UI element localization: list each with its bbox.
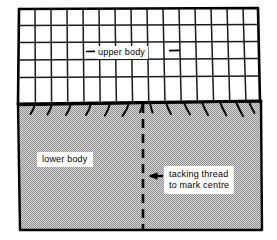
label-upper-body: upper body bbox=[95, 46, 148, 59]
label-tacking-line-1: tacking thread bbox=[169, 169, 229, 180]
figure-artwork bbox=[0, 0, 277, 240]
label-lower-body: lower body bbox=[37, 152, 93, 167]
label-upper-body-text: upper body bbox=[98, 47, 145, 57]
upper-body-left-edge bbox=[18, 9, 19, 104]
sewing-pattern-figure: upper body lower body tacking thread to … bbox=[0, 0, 277, 240]
label-tacking-line-2: to mark centre bbox=[169, 180, 229, 191]
label-tacking-thread: tacking thread to mark centre bbox=[164, 166, 234, 194]
label-lower-body-text: lower body bbox=[42, 154, 88, 164]
